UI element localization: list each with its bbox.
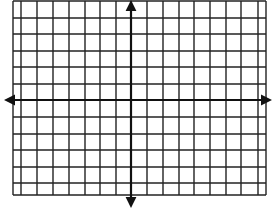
coordinate-plane <box>0 0 274 210</box>
background <box>0 0 274 210</box>
